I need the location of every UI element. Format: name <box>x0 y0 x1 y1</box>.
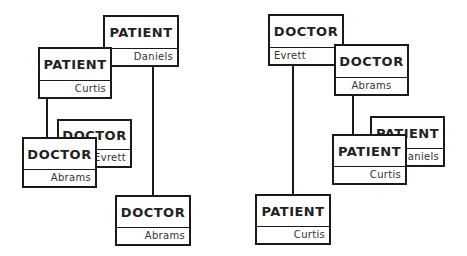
entity-name: Curtis <box>257 227 329 243</box>
entity-box-doctor[interactable]: DOCTOR Evrett <box>268 14 344 66</box>
entity-name: Abrams <box>24 170 95 186</box>
connector-line <box>46 97 48 138</box>
entity-box-doctor[interactable]: DOCTOR Abrams <box>334 44 409 96</box>
connector-line <box>352 94 354 135</box>
entity-name: Evrett <box>270 48 342 64</box>
entity-box-patient[interactable]: PATIENT Curtis <box>332 134 407 185</box>
entity-type: PATIENT <box>334 136 405 167</box>
connector-line <box>292 64 294 195</box>
entity-box-patient[interactable]: PATIENT Curtis <box>255 194 331 245</box>
entity-type: DOCTOR <box>270 16 342 48</box>
entity-type: PATIENT <box>257 196 329 227</box>
entity-type: DOCTOR <box>117 197 189 228</box>
entity-box-doctor[interactable]: DOCTOR Abrams <box>22 137 97 188</box>
connector-line <box>152 65 154 196</box>
entity-type: PATIENT <box>105 17 177 49</box>
entity-box-patient[interactable]: PATIENT Daniels <box>103 15 179 67</box>
entity-box-doctor[interactable]: DOCTOR Abrams <box>115 195 191 246</box>
entity-name: Daniels <box>105 49 177 65</box>
diagram-canvas: PATIENT Daniels PATIENT Curtis DOCTOR Ev… <box>0 0 467 256</box>
entity-name: Curtis <box>40 81 110 97</box>
entity-type: DOCTOR <box>24 139 95 170</box>
entity-name: Abrams <box>117 228 189 244</box>
entity-type: PATIENT <box>40 49 110 81</box>
entity-box-patient[interactable]: PATIENT Curtis <box>38 47 112 99</box>
entity-type: DOCTOR <box>336 46 407 78</box>
entity-name: Abrams <box>336 78 407 94</box>
entity-name: Curtis <box>334 167 405 183</box>
